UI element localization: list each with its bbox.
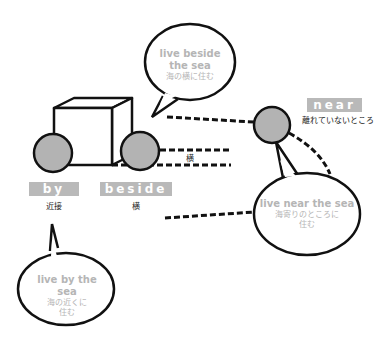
bubble-text-by: live by the sea 海の近くに 住む <box>26 274 108 318</box>
bubble-near-ja2: 住む <box>257 220 357 230</box>
circle-by <box>34 134 72 172</box>
bubble-text-near: live near the sea 海寄りのところに 住む <box>257 198 357 230</box>
bubble-beside-ja: 海の横に住む <box>150 72 230 82</box>
meaning-beside: 横 <box>100 200 172 211</box>
circle-near <box>254 107 290 143</box>
bubble-near-ja1: 海寄りのところに <box>257 210 357 220</box>
label-by: by <box>29 182 79 196</box>
bubble-beside-en1: live beside <box>150 48 230 60</box>
beside-line-label: 横 <box>180 152 200 163</box>
circle-beside <box>121 132 159 170</box>
bubble-beside-en2: the sea <box>150 60 230 72</box>
meaning-near: 離れていないところ <box>290 114 386 125</box>
bubble-near-en: live near the sea <box>257 198 357 210</box>
label-beside: beside <box>100 182 172 196</box>
label-near: near <box>307 98 362 112</box>
bubble-by-ja1: 海の近くに <box>26 298 108 308</box>
bubble-text-beside: live beside the sea 海の横に住む <box>150 48 230 82</box>
meaning-by: 近接 <box>29 200 79 211</box>
bubble-by-en: live by the sea <box>26 274 108 298</box>
bubble-by-ja2: 住む <box>26 308 108 318</box>
